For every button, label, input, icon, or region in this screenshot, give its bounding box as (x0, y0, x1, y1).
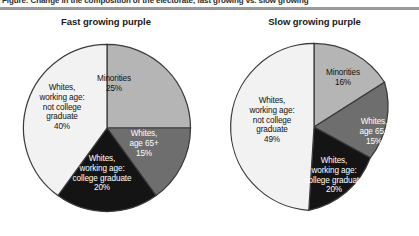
label-slow-not-college-graduate: Whites, working age: not college graduat… (233, 96, 311, 145)
panel-title-slow: Slow growing purple (210, 16, 419, 27)
label-slow-age65: Whites, age 65+ 15% (337, 117, 411, 146)
label-fast-not-college-graduate: Whites, working age: not college graduat… (24, 83, 100, 132)
figure-header-text: Figure: Change in the composition of the… (0, 0, 419, 5)
header-divider-rule (0, 7, 419, 10)
clipped-figure-header: Figure: Change in the composition of the… (0, 0, 419, 5)
label-slow-college-graduate: Whites, working age: college graduate 20… (285, 156, 383, 195)
figure-container: Figure: Change in the composition of the… (0, 0, 419, 236)
pie-chart-slow-growing-purple: Minorities 16% Whites, age 65+ 15% White… (227, 40, 401, 214)
label-slow-minorities: Minorities 16% (303, 68, 383, 88)
panel-title-fast: Fast growing purple (0, 16, 212, 27)
label-fast-college-graduate: Whites, working age: college graduate 20… (53, 154, 151, 193)
pie-chart-fast-growing-purple: Minorities 25% Whites, age 65+ 15% White… (20, 41, 194, 215)
